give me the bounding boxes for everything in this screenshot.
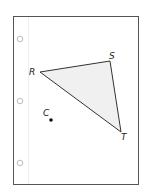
notebook-page bbox=[14, 17, 139, 185]
label-s: S bbox=[109, 51, 115, 61]
diagram-canvas: R S T C bbox=[0, 0, 142, 189]
label-r: R bbox=[29, 67, 35, 77]
label-c: C bbox=[43, 108, 50, 118]
point-c bbox=[49, 118, 53, 122]
